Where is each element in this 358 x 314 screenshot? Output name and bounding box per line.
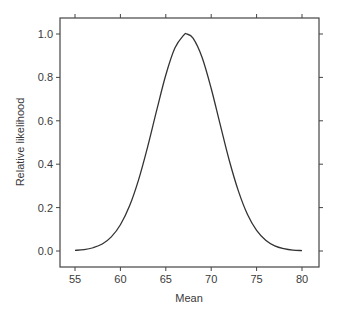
- likelihood-chart: 556065707580 0.00.20.40.60.81.0 Mean Rel…: [0, 0, 358, 314]
- y-axis-ticks: 0.00.20.40.60.81.0: [38, 28, 323, 257]
- x-tick-label: 55: [69, 273, 81, 285]
- x-tick-label: 80: [296, 273, 308, 285]
- x-axis-label: Mean: [175, 292, 203, 304]
- plot-border: [60, 18, 319, 267]
- x-tick-label: 70: [205, 273, 217, 285]
- y-axis-label: Relative likelihood: [14, 98, 26, 187]
- y-tick-label: 0.8: [38, 71, 53, 83]
- x-tick-label: 75: [250, 273, 262, 285]
- plot-frame: [60, 18, 319, 267]
- x-tick-label: 60: [114, 273, 126, 285]
- y-tick-label: 0.0: [38, 245, 53, 257]
- y-tick-label: 0.2: [38, 202, 53, 214]
- y-tick-label: 0.4: [38, 158, 53, 170]
- likelihood-curve: [75, 33, 302, 250]
- y-tick-label: 1.0: [38, 28, 53, 40]
- y-tick-label: 0.6: [38, 115, 53, 127]
- x-tick-label: 65: [160, 273, 172, 285]
